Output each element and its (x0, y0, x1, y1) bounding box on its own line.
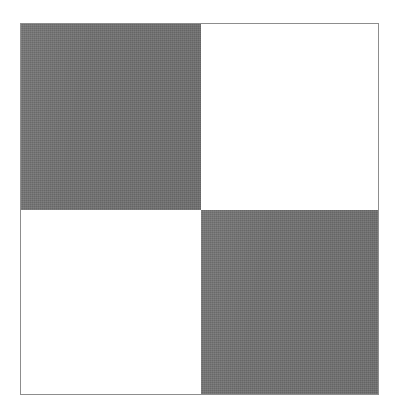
checkerboard-grid (21, 24, 378, 394)
checkerboard-cell-bottom-right (201, 210, 378, 394)
page-background (0, 0, 399, 413)
checkerboard-cell-bottom-left (21, 210, 201, 394)
checkerboard-cell-top-right (201, 24, 378, 210)
figure-frame (20, 23, 379, 395)
checkerboard-cell-top-left (21, 24, 201, 210)
